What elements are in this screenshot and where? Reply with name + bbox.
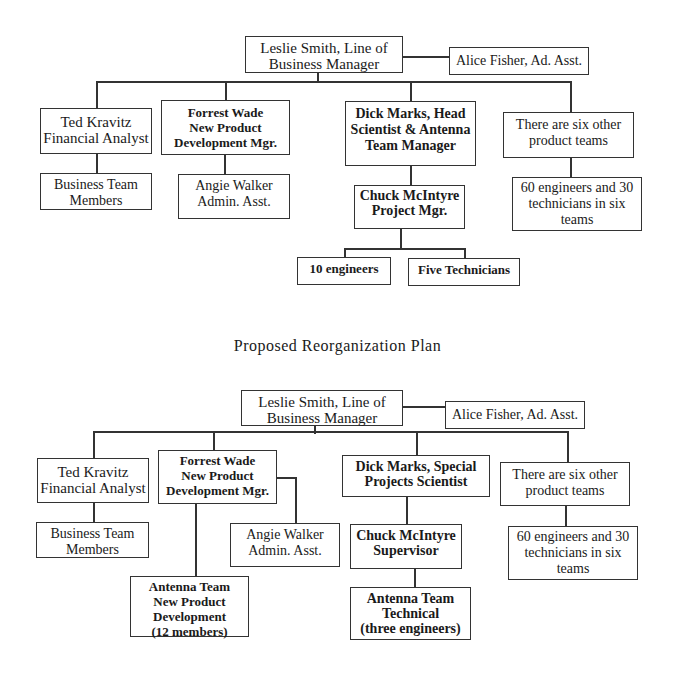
connector bbox=[96, 81, 98, 108]
connector bbox=[570, 158, 572, 177]
assistant-box: Alice Fisher, Ad. Asst. bbox=[445, 401, 585, 429]
connector bbox=[565, 506, 567, 526]
connector bbox=[344, 248, 464, 250]
connector bbox=[93, 503, 95, 522]
engineers-box: 10 engineers bbox=[297, 257, 391, 285]
connector bbox=[406, 497, 408, 524]
financial-analyst-box: Ted Kravitz Financial Analyst bbox=[40, 108, 152, 154]
connector bbox=[403, 56, 449, 58]
connector bbox=[570, 81, 572, 112]
connector bbox=[93, 431, 567, 433]
connector bbox=[414, 569, 416, 587]
npd-manager-box: Forrest Wade New Product Development Mgr… bbox=[161, 100, 290, 155]
connector bbox=[213, 431, 215, 450]
antenna-npd-team-box: Antenna Team New Product Development (12… bbox=[130, 576, 249, 637]
supervisor-box: Chuck McIntyre Supervisor bbox=[350, 524, 462, 569]
admin-assistant-box: Angie Walker Admin. Asst. bbox=[230, 523, 340, 567]
section-title: Proposed Reorganization Plan bbox=[0, 337, 675, 355]
connector bbox=[567, 431, 569, 462]
connector bbox=[295, 477, 297, 523]
other-teams-box: There are six other product teams bbox=[500, 462, 630, 506]
connector bbox=[317, 73, 319, 81]
project-manager-box: Chuck McIntyre Project Mgr. bbox=[354, 185, 465, 229]
connector bbox=[195, 504, 197, 576]
connector bbox=[400, 229, 402, 248]
connector bbox=[96, 154, 98, 173]
connector bbox=[277, 477, 295, 479]
connector bbox=[314, 426, 316, 434]
other-staff-box: 60 engineers and 30 technicians in six t… bbox=[508, 526, 638, 580]
manager-box: Leslie Smith, Line of Business Manager bbox=[241, 390, 403, 426]
other-teams-box: There are six other product teams bbox=[503, 112, 634, 158]
admin-assistant-box: Angie Walker Admin. Asst. bbox=[178, 174, 290, 219]
connector bbox=[403, 406, 445, 408]
other-staff-box: 60 engineers and 30 technicians in six t… bbox=[512, 177, 642, 231]
connector bbox=[93, 431, 95, 458]
special-projects-scientist-box: Dick Marks, Special Projects Scientist bbox=[342, 455, 490, 497]
assistant-box: Alice Fisher, Ad. Asst. bbox=[449, 47, 589, 75]
technicians-box: Five Technicians bbox=[408, 258, 520, 286]
connector bbox=[96, 81, 570, 83]
connector bbox=[416, 431, 418, 455]
manager-box: Leslie Smith, Line of Business Manager bbox=[245, 36, 403, 73]
connector bbox=[225, 81, 227, 100]
financial-analyst-box: Ted Kravitz Financial Analyst bbox=[37, 458, 149, 503]
connector bbox=[464, 248, 466, 258]
antenna-technical-team-box: Antenna Team Technical (three engineers) bbox=[350, 587, 471, 640]
business-team-box: Business Team Members bbox=[36, 522, 149, 558]
npd-manager-box: Forrest Wade New Product Development Mgr… bbox=[158, 450, 277, 504]
business-team-box: Business Team Members bbox=[40, 173, 152, 210]
head-scientist-box: Dick Marks, Head Scientist & Antenna Tea… bbox=[345, 101, 476, 166]
connector bbox=[224, 155, 226, 174]
connector bbox=[410, 81, 412, 101]
connector bbox=[344, 248, 346, 257]
connector bbox=[410, 166, 412, 185]
